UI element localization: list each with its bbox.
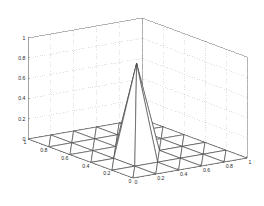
tick-label: 0.6 <box>18 75 25 81</box>
tick-label: 1 <box>249 159 252 165</box>
tick-label: 0.4 <box>82 163 89 169</box>
tick-label: 1 <box>23 35 26 41</box>
tick-label: 0.8 <box>18 55 25 61</box>
mesh-faces <box>28 64 247 179</box>
tick-label: 1 <box>24 139 27 145</box>
surface-plot-3d: 00.20.40.60.8110.80.60.40.2000.20.40.60.… <box>0 0 264 206</box>
tick-label: 0.6 <box>203 167 210 173</box>
tick-label: 0.8 <box>226 163 233 169</box>
figure-canvas: 00.20.40.60.8110.80.60.40.2000.20.40.60.… <box>0 0 264 206</box>
tick-label: 0 <box>129 178 132 184</box>
tick-label: 0.2 <box>157 175 164 181</box>
tick-label: 0.6 <box>61 155 68 161</box>
tick-label: 0.8 <box>40 147 47 153</box>
tick-label: 0.2 <box>103 170 110 176</box>
tick-label: 0 <box>135 179 138 185</box>
tick-label: 0.4 <box>18 95 25 101</box>
tick-label: 0.2 <box>18 116 25 122</box>
tick-label: 0.4 <box>180 171 187 177</box>
